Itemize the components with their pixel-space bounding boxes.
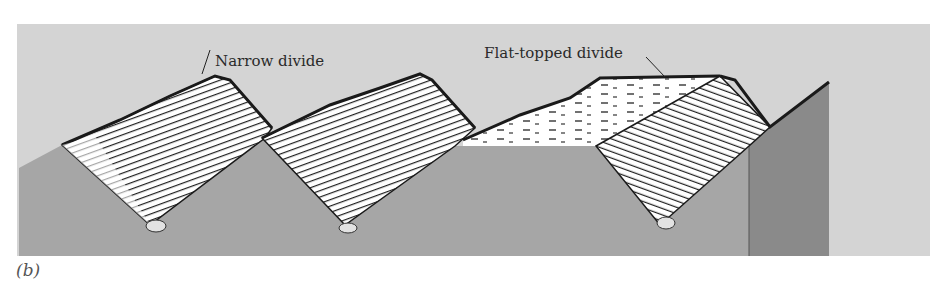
flat-topped-divide-label: Flat-topped divide xyxy=(484,44,623,62)
narrow-divide-label: Narrow divide xyxy=(215,52,324,70)
panel-label: (b) xyxy=(16,260,40,280)
stream-2 xyxy=(339,223,357,233)
stream-3 xyxy=(657,217,675,229)
stream-1 xyxy=(146,220,166,232)
landform-divides-diagram: Narrow divide Flat-topped divide xyxy=(0,0,951,290)
